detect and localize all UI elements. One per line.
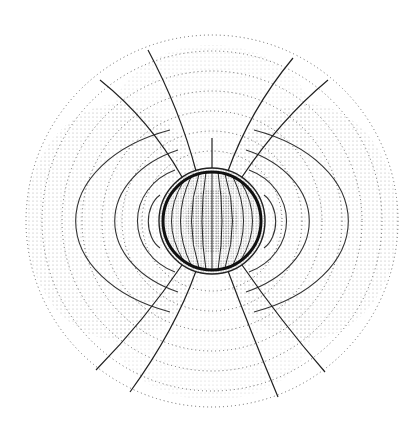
dipole-field-diagram (0, 0, 418, 432)
field-diagram-svg (0, 0, 418, 432)
central-sphere (159, 168, 265, 274)
